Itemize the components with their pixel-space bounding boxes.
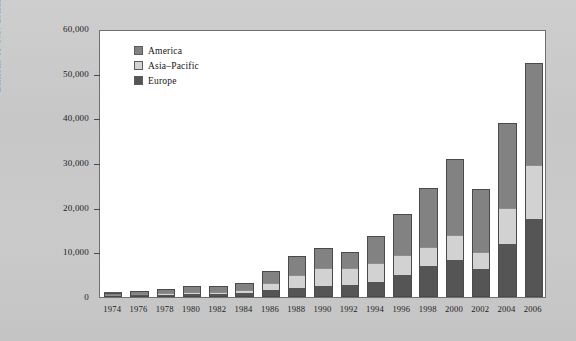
bar-segment-europe bbox=[472, 269, 490, 297]
legend-label: Europe bbox=[148, 76, 177, 86]
bar-stack-1994 bbox=[367, 236, 385, 297]
bar-segment-america bbox=[446, 159, 464, 235]
x-tick-label: 1994 bbox=[362, 304, 388, 314]
bar-segment-europe bbox=[235, 293, 253, 297]
chart-legend: AmericaAsia–PacificEurope bbox=[134, 44, 199, 89]
bar-segment-america bbox=[341, 252, 359, 269]
bar-segment-america bbox=[393, 214, 411, 254]
bar-segment-europe bbox=[130, 295, 148, 297]
bar-segment-america bbox=[419, 188, 437, 247]
y-tick-mark bbox=[94, 75, 100, 76]
x-tick-label: 1982 bbox=[204, 304, 230, 314]
bar-stack-1986 bbox=[262, 271, 280, 297]
bar-segment-asia-pacific bbox=[262, 283, 280, 291]
x-tick-label: 1992 bbox=[336, 304, 362, 314]
y-tick-mark bbox=[94, 164, 100, 165]
bar-segment-europe bbox=[157, 295, 175, 297]
y-tick-label: 20,000 bbox=[63, 203, 89, 213]
x-tick-label: 1996 bbox=[388, 304, 414, 314]
y-tick-label: 50,000 bbox=[63, 69, 89, 79]
x-tick-label: 1998 bbox=[415, 304, 441, 314]
bar-segment-america bbox=[525, 63, 543, 166]
bar-segment-america bbox=[288, 256, 306, 274]
y-tick-label: 40,000 bbox=[63, 113, 89, 123]
bar-segment-europe bbox=[525, 219, 543, 297]
bar-segment-america bbox=[498, 123, 516, 208]
bar-stack-1988 bbox=[288, 256, 306, 297]
bar-segment-europe bbox=[288, 288, 306, 297]
legend-item: America bbox=[134, 44, 199, 57]
x-tick-label: 2006 bbox=[520, 304, 546, 314]
x-tick-label: 2004 bbox=[493, 304, 519, 314]
bar-segment-america bbox=[367, 236, 385, 263]
bar-stack-1984 bbox=[235, 283, 253, 297]
bar-stack-2004 bbox=[498, 123, 516, 297]
bar-segment-asia-pacific bbox=[367, 263, 385, 282]
bar-segment-asia-pacific bbox=[314, 268, 332, 286]
bar-segment-europe bbox=[104, 296, 122, 297]
x-tick-label: 1990 bbox=[309, 304, 335, 314]
bar-stack-2000 bbox=[446, 159, 464, 297]
x-tick-label: 1978 bbox=[152, 304, 178, 314]
legend-swatch-icon bbox=[134, 61, 143, 70]
y-tick-label: 10,000 bbox=[63, 247, 89, 257]
bar-segment-europe bbox=[393, 275, 411, 297]
legend-label: America bbox=[148, 46, 182, 56]
chart-figure: Billions of U.S. dollars 010,00020,00030… bbox=[0, 0, 576, 341]
bar-stack-2002 bbox=[472, 189, 490, 297]
y-axis-title: Billions of U.S. dollars bbox=[0, 0, 2, 92]
x-tick-label: 1976 bbox=[125, 304, 151, 314]
bar-segment-asia-pacific bbox=[498, 208, 516, 245]
bar-segment-europe bbox=[446, 260, 464, 297]
legend-item: Europe bbox=[134, 74, 199, 87]
bar-stack-1982 bbox=[209, 286, 227, 297]
y-tick-mark bbox=[94, 209, 100, 210]
y-tick-mark bbox=[94, 253, 100, 254]
legend-item: Asia–Pacific bbox=[134, 59, 199, 72]
x-tick-label: 2000 bbox=[441, 304, 467, 314]
bar-segment-europe bbox=[183, 294, 201, 297]
bar-segment-europe bbox=[498, 244, 516, 297]
bar-stack-1998 bbox=[419, 188, 437, 297]
bar-segment-europe bbox=[341, 285, 359, 297]
x-tick-label: 2002 bbox=[467, 304, 493, 314]
bar-segment-europe bbox=[314, 286, 332, 297]
bar-stack-1978 bbox=[157, 289, 175, 297]
bar-segment-asia-pacific bbox=[446, 235, 464, 260]
bar-segment-asia-pacific bbox=[288, 275, 306, 288]
bar-stack-1996 bbox=[393, 214, 411, 297]
y-tick-label: 60,000 bbox=[63, 24, 89, 34]
x-tick-label: 1986 bbox=[257, 304, 283, 314]
bar-stack-1980 bbox=[183, 286, 201, 297]
bar-segment-asia-pacific bbox=[393, 255, 411, 275]
legend-swatch-icon bbox=[134, 46, 143, 55]
bar-segment-asia-pacific bbox=[525, 165, 543, 219]
legend-swatch-icon bbox=[134, 76, 143, 85]
bar-stack-1974 bbox=[104, 292, 122, 297]
x-tick-label: 1974 bbox=[99, 304, 125, 314]
y-tick-label: 0 bbox=[84, 292, 89, 302]
bar-segment-america bbox=[314, 248, 332, 268]
bar-stack-1992 bbox=[341, 252, 359, 297]
bar-stack-1976 bbox=[130, 291, 148, 297]
x-tick-label: 1988 bbox=[283, 304, 309, 314]
bar-segment-europe bbox=[367, 282, 385, 297]
y-tick-mark bbox=[94, 119, 100, 120]
bar-segment-america bbox=[235, 283, 253, 290]
bar-segment-america bbox=[472, 189, 490, 252]
bar-segment-asia-pacific bbox=[419, 247, 437, 266]
bar-segment-europe bbox=[419, 266, 437, 297]
legend-label: Asia–Pacific bbox=[148, 61, 199, 71]
bar-stack-1990 bbox=[314, 248, 332, 297]
x-tick-label: 1984 bbox=[230, 304, 256, 314]
bar-segment-asia-pacific bbox=[341, 268, 359, 285]
y-tick-label: 30,000 bbox=[63, 158, 89, 168]
bar-segment-asia-pacific bbox=[472, 252, 490, 269]
x-tick-label: 1980 bbox=[178, 304, 204, 314]
bar-segment-europe bbox=[262, 290, 280, 297]
bar-stack-2006 bbox=[525, 63, 543, 297]
bar-segment-europe bbox=[209, 294, 227, 297]
bar-segment-america bbox=[262, 271, 280, 283]
